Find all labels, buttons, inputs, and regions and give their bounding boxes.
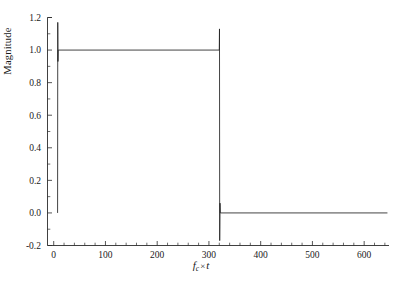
x-axis: 0100200300400500600 [48, 241, 390, 260]
y-tick-label: 0.8 [29, 78, 41, 88]
chart-figure: Magnitude fc×t -0.20.00.20.40.60.81.01.2… [0, 0, 402, 284]
data-series-line [58, 22, 388, 240]
data-series-group [58, 22, 388, 240]
x-tick-label: 100 [98, 250, 113, 260]
y-axis: -0.20.00.20.40.60.81.01.2 [26, 13, 52, 251]
plot-canvas: -0.20.00.20.40.60.81.01.2 01002003004005… [0, 0, 402, 284]
y-tick-label: 0.0 [29, 208, 41, 218]
y-tick-label: 0.2 [29, 176, 41, 186]
y-tick-label: 1.2 [29, 13, 41, 23]
x-tick-label: 400 [254, 250, 269, 260]
x-tick-label: 0 [51, 250, 56, 260]
x-tick-label: 200 [150, 250, 165, 260]
y-tick-label: 1.0 [29, 45, 41, 55]
x-tick-label: 500 [305, 250, 320, 260]
y-tick-label: -0.2 [26, 241, 41, 251]
y-tick-label: 0.6 [29, 111, 41, 121]
y-tick-label: 0.4 [29, 143, 41, 153]
x-tick-label: 600 [357, 250, 372, 260]
x-tick-label: 300 [202, 250, 217, 260]
